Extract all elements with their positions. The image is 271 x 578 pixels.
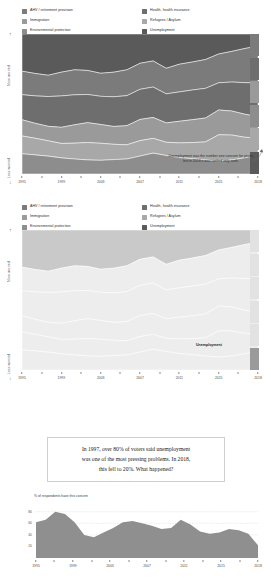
- chart3-area: [36, 506, 258, 558]
- chart2-x-tick: [199, 372, 200, 376]
- chart2-legend-item[interactable]: Immigration: [22, 212, 130, 222]
- chart2-x-tick: 2015: [215, 372, 223, 380]
- chart2-endcap-chip[interactable]: [250, 230, 259, 252]
- chart2-legend-item[interactable]: Refugees / Asylum: [142, 212, 250, 222]
- chart1-x-tick: 2015: [215, 176, 223, 184]
- chart3: % of respondents have this concern 80604…: [0, 494, 271, 578]
- chart1-legend-label: AHV / retirement provision: [30, 9, 73, 13]
- chart3-x-tick-label: 2007: [143, 564, 151, 568]
- chart2-y-arrow-bottom: ↓: [9, 376, 12, 381]
- chart2-unemployment-label: Unemployment: [196, 343, 222, 347]
- tick-mark-icon: [257, 560, 258, 562]
- chart3-x-tick: [91, 560, 92, 564]
- chart1-legend-item[interactable]: AHV / retirement provision: [22, 6, 130, 16]
- chart2-legend-item[interactable]: AHV / retirement provision: [22, 202, 130, 212]
- chart2-legend-label: Refugees / Asylum: [150, 215, 181, 219]
- chart2-x-tick-label: 2003: [97, 376, 105, 380]
- chart1-legend-label: Health, health insurance: [150, 9, 190, 13]
- chart2-x-tick-label: 2007: [136, 376, 144, 380]
- legend-swatch-icon: [142, 205, 147, 210]
- quote-callout-box: In 1997, over 80% of voters said unemplo…: [47, 437, 225, 482]
- tick-mark-icon: [72, 560, 73, 562]
- tick-mark-icon: [35, 560, 36, 562]
- chart1-y-arrow-top: ↑: [9, 32, 12, 37]
- chart2-x-tick: [159, 372, 160, 376]
- chart1-x-tick-label: 1995: [18, 180, 26, 184]
- tick-mark-icon: [81, 372, 82, 374]
- chart2-endcap-chip[interactable]: [250, 348, 259, 370]
- chart1-x-tick-label: 2018: [254, 180, 262, 184]
- chart2-2018-endcap: [250, 230, 259, 370]
- chart2-y-arrow-top: ↑: [9, 228, 12, 233]
- chart3-x-tick: 1999: [69, 560, 77, 568]
- chart2-legend-label: Health, health insurance: [150, 205, 190, 209]
- chart2-x-tick-label: 1999: [58, 376, 66, 380]
- tick-mark-icon: [238, 176, 239, 178]
- chart1-legend-item[interactable]: Immigration: [22, 16, 130, 26]
- tick-mark-icon: [21, 176, 22, 178]
- chart1-x-axis: 1995199920032007201120152018: [22, 176, 258, 188]
- chart1-legend-item[interactable]: Health, health insurance: [142, 6, 250, 16]
- chart2-x-tick: 1995: [18, 372, 26, 380]
- legend-swatch-icon: [142, 9, 147, 14]
- chart2-x-tick: [41, 372, 42, 376]
- chart3-x-tick: 2007: [143, 560, 151, 568]
- tick-mark-icon: [238, 372, 239, 374]
- chart1-x-tick: [120, 176, 121, 180]
- chart3-x-tick-label: 2018: [254, 564, 262, 568]
- chart1-x-tick: 1999: [58, 176, 66, 184]
- chart3-y-tick-label: 20: [22, 544, 32, 548]
- tick-mark-icon: [202, 560, 203, 562]
- chart1-legend-label: Immigration: [30, 19, 49, 23]
- chart2-x-tick: 2007: [136, 372, 144, 380]
- chart1-endcap-chip[interactable]: [250, 81, 259, 103]
- tick-mark-icon: [139, 176, 140, 178]
- tick-mark-icon: [61, 372, 62, 374]
- chart2-legend-label: Immigration: [30, 215, 49, 219]
- chart3-y-tick-label: 40: [22, 533, 32, 537]
- tick-mark-icon: [120, 176, 121, 178]
- quote-line-1: In 1997, over 80% of voters said unemplo…: [57, 445, 215, 455]
- chart2-endcap-chip[interactable]: [250, 324, 259, 346]
- chart1-x-tick: [41, 176, 42, 180]
- chart3-x-tick-label: 1999: [69, 564, 77, 568]
- chart2-endcap-chip[interactable]: [250, 254, 259, 276]
- tick-mark-icon: [61, 176, 62, 178]
- chart1-legend-item[interactable]: Refugees / Asylum: [142, 16, 250, 26]
- legend-swatch-icon: [22, 215, 27, 220]
- tick-mark-icon: [159, 176, 160, 178]
- chart1-y-bottom-label: Less worried: [7, 134, 11, 178]
- chart1-x-tick: 2007: [136, 176, 144, 184]
- tick-mark-icon: [165, 560, 166, 562]
- chart2-x-tick: 2011: [176, 372, 183, 380]
- chart1: ↑ More worried Less worried ↓ Unemployme…: [0, 30, 271, 195]
- tick-mark-icon: [120, 372, 121, 374]
- tick-mark-icon: [109, 560, 110, 562]
- chart1-annotation-arrow: [252, 148, 264, 162]
- chart1-endcap-chip[interactable]: [250, 58, 259, 80]
- chart3-x-tick: 2018: [254, 560, 262, 568]
- chart1-x-tick: 2003: [97, 176, 105, 184]
- chart2-endcap-chip[interactable]: [250, 301, 259, 323]
- chart3-axis-title: % of respondents have this concern: [34, 494, 88, 498]
- chart1-endcap-chip[interactable]: [250, 34, 259, 56]
- chart3-y-tick-label: 80: [22, 510, 32, 514]
- chart2-x-tick: 1999: [58, 372, 66, 380]
- chart3-area-path[interactable]: [36, 512, 258, 558]
- chart2-endcap-chip[interactable]: [250, 277, 259, 299]
- chart2-x-tick: [81, 372, 82, 376]
- chart2-legend-item[interactable]: Health, health insurance: [142, 202, 250, 212]
- chart2-x-tick-label: 2011: [176, 376, 183, 380]
- chart3-x-tick: [54, 560, 55, 564]
- tick-mark-icon: [218, 176, 219, 178]
- tick-mark-icon: [139, 372, 140, 374]
- chart2-x-tick-label: 2018: [254, 376, 262, 380]
- chart3-x-tick: 2011: [180, 560, 187, 568]
- chart2-legend-label: AHV / retirement provision: [30, 205, 73, 209]
- tick-mark-icon: [179, 372, 180, 374]
- chart1-endcap-chip[interactable]: [250, 105, 259, 127]
- chart1-plot: [22, 34, 258, 174]
- quote-line-3: this fell to 20%. What happened?: [57, 465, 215, 475]
- chart3-x-tick: 2015: [217, 560, 225, 568]
- tick-mark-icon: [183, 560, 184, 562]
